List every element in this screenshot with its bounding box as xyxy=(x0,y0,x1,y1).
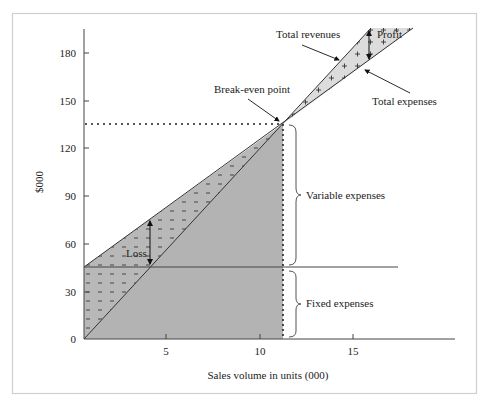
break-even-label: Break-even point xyxy=(214,83,290,95)
total-expenses-pointer xyxy=(365,70,410,93)
variable-expenses-label: Variable expenses xyxy=(306,189,385,201)
y-tick-label: 180 xyxy=(60,47,77,59)
x-tick-label: 10 xyxy=(255,345,267,357)
total-revenues-label: Total revenues xyxy=(276,28,340,40)
y-tick-label: 90 xyxy=(65,190,77,202)
y-tick-label: 60 xyxy=(65,238,77,250)
break-even-chart: 180 150 120 90 60 30 0 5 10 15 Sales vol… xyxy=(0,0,489,407)
fixed-expenses-label: Fixed expenses xyxy=(306,297,374,309)
total-revenues-pointer xyxy=(302,45,339,60)
variable-expenses-brace xyxy=(289,125,301,265)
y-tick-label: 0 xyxy=(71,333,77,345)
y-tick-label: 30 xyxy=(65,286,77,298)
profit-label: Profit xyxy=(377,28,402,40)
y-ticks xyxy=(84,53,89,292)
break-even-pointer xyxy=(248,99,279,121)
y-tick-label: 150 xyxy=(60,95,77,107)
x-tick-label: 15 xyxy=(348,345,360,357)
total-expenses-label: Total expenses xyxy=(372,95,437,107)
y-tick-label: 120 xyxy=(60,142,77,154)
fixed-expenses-brace xyxy=(289,271,301,337)
loss-label: Loss xyxy=(126,247,147,259)
x-tick-label: 5 xyxy=(163,345,169,357)
x-axis-label: Sales volume in units (000) xyxy=(208,369,329,382)
y-axis-label: $000 xyxy=(33,171,45,194)
